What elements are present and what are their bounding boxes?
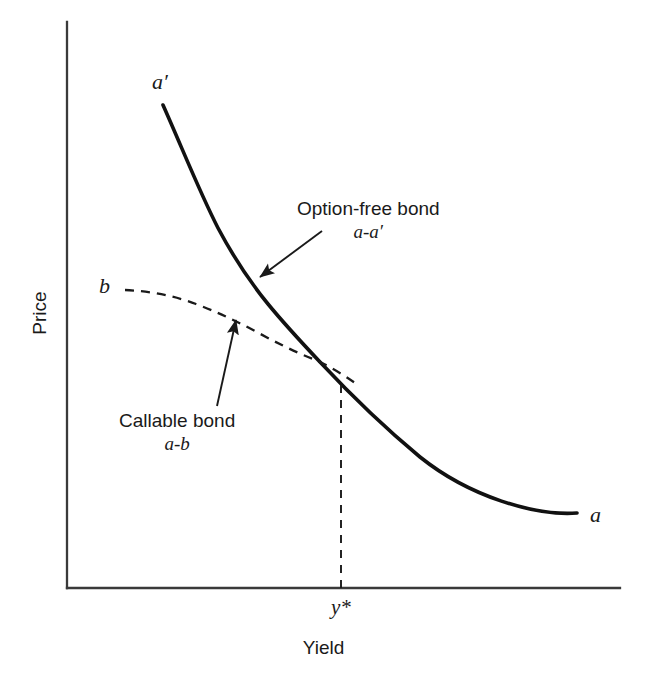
annotation-option-free-bond: Option-free bond a-a′ <box>297 198 440 243</box>
curve-endpoint-label-a: a <box>590 503 601 528</box>
callable-annotation-leader <box>217 320 236 406</box>
x-axis-tick-label-ystar: y* <box>331 596 351 620</box>
y-axis-title-container: Price <box>20 278 60 348</box>
chart-canvas <box>0 0 647 680</box>
curve-endpoint-label-a-prime: a′ <box>152 70 168 95</box>
annotation-option-free-title: Option-free bond <box>297 198 440 219</box>
price-yield-chart: Price Yield y* a′ a b Option-free bond a… <box>0 0 647 680</box>
callable-bond-curve <box>125 290 358 385</box>
x-axis-title: Yield <box>0 637 647 658</box>
annotation-callable-bond: Callable bond a-b <box>119 410 235 455</box>
annotation-callable-subtitle: a-b <box>119 433 235 454</box>
y-axis-title: Price <box>29 291 51 334</box>
annotation-option-free-subtitle: a-a′ <box>297 221 440 242</box>
curve-endpoint-label-b: b <box>99 274 110 299</box>
annotation-callable-title: Callable bond <box>119 410 235 431</box>
